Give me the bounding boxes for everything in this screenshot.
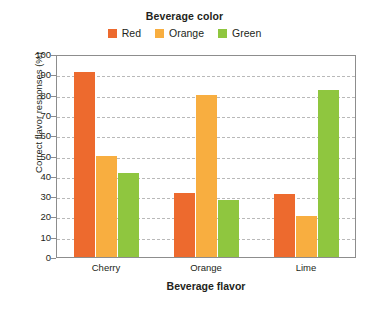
- gridline: [57, 76, 355, 77]
- x-tick-label: Cherry: [56, 263, 156, 273]
- bar-lime-orange: [296, 216, 317, 257]
- legend-label-orange: Orange: [169, 28, 204, 39]
- y-tick-label: 50: [11, 152, 51, 162]
- y-tick-label: 0: [11, 253, 51, 263]
- x-tick-label: Orange: [156, 263, 256, 273]
- bar-orange-green: [218, 200, 239, 257]
- legend-title: Beverage color: [0, 10, 369, 22]
- plot-area: [56, 55, 356, 258]
- legend-item-green: Green: [218, 28, 261, 39]
- y-tick-label: 70: [11, 111, 51, 121]
- bar-cherry-green: [118, 173, 139, 257]
- bar-lime-red: [274, 194, 295, 257]
- legend-swatch-red-icon: [108, 29, 117, 38]
- legend-swatch-orange-icon: [155, 29, 164, 38]
- y-tick-label: 40: [11, 172, 51, 182]
- y-tick-label: 60: [11, 131, 51, 141]
- legend-label-red: Red: [122, 28, 141, 39]
- y-tick-label: 100: [11, 50, 51, 60]
- x-axis-title: Beverage flavor: [56, 280, 356, 292]
- bar-cherry-red: [74, 72, 95, 257]
- y-tick-label: 20: [11, 212, 51, 222]
- y-tick-label: 80: [11, 91, 51, 101]
- legend-swatch-green-icon: [218, 29, 227, 38]
- bar-cherry-orange: [96, 156, 117, 258]
- bar-chart-figure: Beverage color Red Orange Green Correct …: [0, 0, 369, 311]
- y-tick-mark: [51, 258, 56, 259]
- x-tick-label: Lime: [256, 263, 356, 273]
- chart-legend: Red Orange Green: [0, 28, 369, 39]
- bar-orange-red: [174, 193, 195, 257]
- y-tick-label: 30: [11, 192, 51, 202]
- legend-item-red: Red: [108, 28, 141, 39]
- y-tick-label: 90: [11, 70, 51, 80]
- y-tick-label: 10: [11, 233, 51, 243]
- legend-label-green: Green: [232, 28, 261, 39]
- bar-orange-orange: [196, 95, 217, 257]
- legend-item-orange: Orange: [155, 28, 204, 39]
- bar-lime-green: [318, 90, 339, 257]
